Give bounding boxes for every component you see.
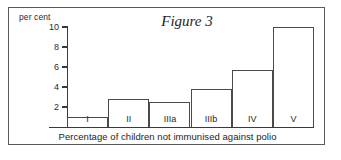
bar-label: IV	[232, 115, 273, 124]
plot-area: per cent Figure 3 108642 IIIIIIaIIIbIVV …	[9, 8, 326, 146]
bars-layer: IIIIIIaIIIbIVV	[9, 8, 326, 146]
chart-caption: Percentage of children not immunised aga…	[9, 131, 326, 142]
bar-label: II	[108, 115, 149, 124]
bar-v	[273, 27, 314, 127]
bar-label: V	[273, 115, 314, 124]
figure-root: per cent Figure 3 108642 IIIIIIaIIIbIVV …	[0, 0, 341, 160]
bar-label: I	[67, 115, 108, 124]
bar-label: IIIb	[191, 115, 232, 124]
bar-label: IIIa	[149, 115, 190, 124]
figure-frame: per cent Figure 3 108642 IIIIIIaIIIbIVV …	[8, 7, 325, 145]
